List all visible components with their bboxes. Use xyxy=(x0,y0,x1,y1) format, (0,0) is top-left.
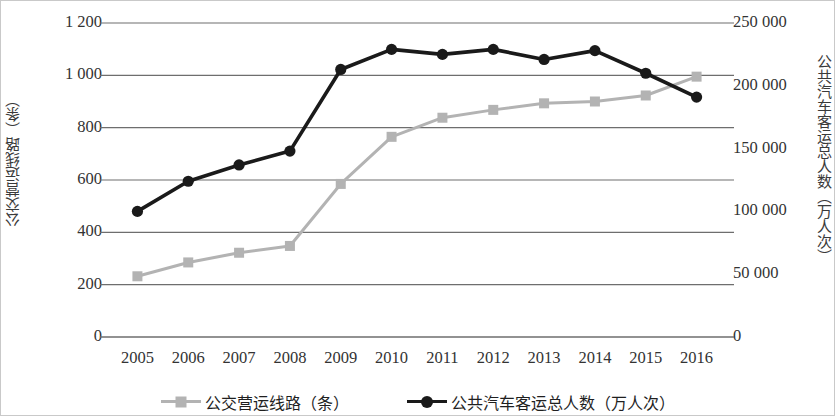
data-point-marker xyxy=(233,159,244,170)
data-point-marker xyxy=(488,105,498,115)
left-axis-tick: 800 xyxy=(77,119,102,136)
legend-key-circle xyxy=(407,395,447,409)
data-point-marker xyxy=(183,176,194,187)
chart-legend: 公交营运线路（条）公共汽车客运总人数（万人次） xyxy=(0,386,836,417)
legend-key-marker xyxy=(421,396,433,408)
data-point-marker xyxy=(691,92,702,103)
left-axis-tick: 600 xyxy=(77,171,102,188)
series-1 xyxy=(132,72,701,282)
data-point-marker xyxy=(336,179,346,189)
x-axis-tick: 2005 xyxy=(121,348,154,368)
x-axis-tick: 2006 xyxy=(172,348,205,368)
right-axis-tick: 150 000 xyxy=(733,140,787,157)
left-axis-tick: 400 xyxy=(77,223,102,240)
series-line xyxy=(137,49,696,211)
x-axis-tick: 2008 xyxy=(273,348,306,368)
left-axis-tick: 1 200 xyxy=(65,14,102,31)
legend-label: 公交营运线路（条） xyxy=(205,390,349,414)
legend-label: 公共汽车客运总人数（万人次） xyxy=(451,390,675,414)
data-point-marker xyxy=(234,248,244,258)
data-point-marker xyxy=(590,97,600,107)
data-point-marker xyxy=(437,113,447,123)
data-point-marker xyxy=(640,68,651,79)
right-axis-tick: 50 000 xyxy=(733,265,778,282)
plot-area xyxy=(112,14,722,346)
right-axis-tick: 250 000 xyxy=(733,14,787,31)
legend-item[interactable]: 公共汽车客运总人数（万人次） xyxy=(407,390,675,414)
data-point-marker xyxy=(538,54,549,65)
x-axis-tick: 2014 xyxy=(578,348,611,368)
plot-svg xyxy=(112,14,722,346)
series-line xyxy=(137,77,696,277)
right-axis-tick: 100 000 xyxy=(733,202,787,219)
chart-container: 公交营运线路（条） 公共汽车客运总人数（万人次） 02004006008001 … xyxy=(0,0,836,417)
data-point-marker xyxy=(386,44,397,55)
data-point-marker xyxy=(641,90,651,100)
legend-key-marker xyxy=(176,396,187,407)
x-axis-tick: 2007 xyxy=(223,348,256,368)
right-axis-tick: 200 000 xyxy=(733,77,787,94)
data-point-marker xyxy=(692,72,702,82)
x-axis-tick: 2013 xyxy=(528,348,561,368)
x-axis-tick: 2012 xyxy=(477,348,510,368)
right-axis-tick-labels: 050 000100 000150 000200 000250 000 xyxy=(733,0,819,417)
left-axis-tick: 200 xyxy=(77,276,102,293)
left-axis-tick-labels: 02004006008001 0001 200 xyxy=(18,0,102,417)
legend-item[interactable]: 公交营运线路（条） xyxy=(161,390,349,414)
x-axis-tick-labels: 2005200620072008200920102011201220132014… xyxy=(112,348,722,374)
x-axis-tick: 2011 xyxy=(426,348,458,368)
x-axis-tick: 2016 xyxy=(680,348,713,368)
data-point-marker xyxy=(488,44,499,55)
data-point-marker xyxy=(183,257,193,267)
left-axis-tick: 1 000 xyxy=(65,66,102,83)
data-point-marker xyxy=(132,271,142,281)
data-point-marker xyxy=(387,132,397,142)
x-axis-tick: 2010 xyxy=(375,348,408,368)
data-point-marker xyxy=(284,146,295,157)
legend-key-square xyxy=(161,395,201,409)
x-axis-tick: 2009 xyxy=(324,348,357,368)
data-point-marker xyxy=(285,241,295,251)
data-point-marker xyxy=(539,98,549,108)
data-point-marker xyxy=(589,45,600,56)
data-point-marker xyxy=(132,206,143,217)
data-point-marker xyxy=(437,49,448,60)
series-2 xyxy=(132,44,702,217)
x-axis-tick: 2015 xyxy=(629,348,662,368)
right-axis-tick: 0 xyxy=(733,328,741,345)
data-point-marker xyxy=(335,64,346,75)
